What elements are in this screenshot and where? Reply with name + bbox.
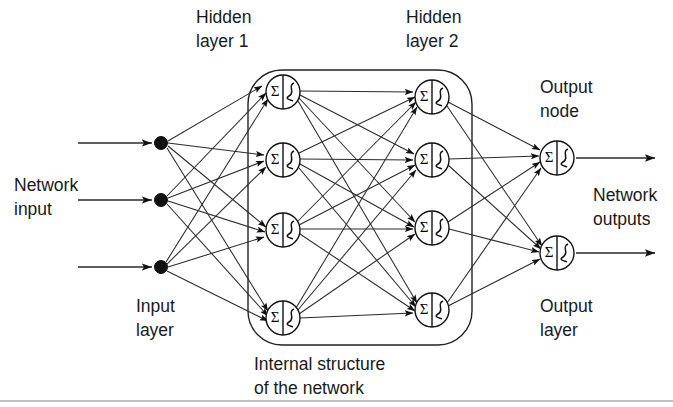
summation-symbol: Σ [420, 219, 429, 235]
edge-h2b-o1 [449, 156, 539, 159]
network-figure-canvas: Σ Σ Σ Σ Σ [0, 0, 673, 407]
label-output-layer: Output layer [540, 296, 593, 340]
edge-in2-h1d [167, 204, 268, 316]
edge-h1d-h2b [297, 170, 416, 311]
neuron-node-h1d: Σ [266, 301, 300, 335]
input-node-2 [155, 194, 168, 207]
network-outputs-line1: Network [593, 185, 657, 205]
summation-symbol: Σ [545, 244, 554, 260]
edge-h1a-h2a [300, 91, 413, 92]
input-node-3 [155, 261, 168, 274]
network-input-line1: Network [14, 175, 78, 195]
edge-in3-h1d [167, 271, 268, 321]
summation-symbol: Σ [545, 149, 554, 165]
network-output-lines [576, 158, 655, 253]
edge-h2b-o2 [448, 165, 541, 249]
network-input-lines [78, 143, 152, 267]
label-hidden-layer-2: Hidden layer 2 [406, 7, 461, 51]
neuron-node-o1: Σ [540, 141, 574, 175]
edge-in3-h1c [168, 237, 264, 267]
edge-h2c-o1 [448, 162, 540, 222]
edge-h2a-o1 [448, 102, 540, 150]
summation-symbol: Σ [420, 88, 429, 104]
edge-h1d-h2d [300, 313, 413, 318]
neuron-node-h1a: Σ [266, 75, 300, 109]
network-outputs-line2: outputs [593, 209, 651, 229]
neuron-node-h1c: Σ [266, 213, 300, 247]
summation-symbol: Σ [271, 83, 280, 99]
label-output-node: Output node [540, 77, 593, 121]
input-layer-line1: Input [136, 296, 175, 316]
summation-symbol: Σ [271, 309, 280, 325]
neuron-node-h2b: Σ [415, 143, 449, 177]
edge-h1b-h2a [299, 97, 415, 153]
edge-h1c-h2b [299, 165, 415, 225]
edge-h1b-h2d [299, 168, 416, 307]
input-layer-line2: layer [136, 320, 174, 340]
label-hidden-layer-1: Hidden layer 1 [196, 7, 251, 51]
hidden1-to-hidden2-edges [296, 91, 417, 318]
internal-structure-line2: of the network [254, 378, 364, 398]
output-node-line1: Output [540, 77, 593, 97]
edge-h2a-o2 [447, 106, 542, 246]
output-node-line2: node [540, 101, 579, 121]
neural-network-diagram: Σ Σ Σ Σ Σ [0, 0, 673, 407]
input-to-hidden1-edges [166, 86, 268, 321]
hidden-layer-1-line2: layer 1 [196, 31, 249, 51]
edge-h1b-h2b [300, 159, 413, 160]
label-network-input: Network input [14, 175, 78, 219]
output-layer-line1: Output [540, 296, 593, 316]
edge-h1c-h2a [298, 102, 416, 221]
label-network-outputs: Network outputs [593, 185, 657, 229]
hidden-layer-2-line1: Hidden [406, 7, 461, 27]
hidden2-to-output-edges [447, 102, 542, 306]
hidden-layer-2-line2: layer 2 [406, 31, 459, 51]
internal-structure-line1: Internal structure [254, 354, 385, 374]
label-input-layer: Input layer [136, 296, 175, 340]
neuron-node-h2d: Σ [415, 293, 449, 327]
edge-in1-h1d [167, 148, 268, 311]
output-layer-line2: layer [540, 320, 578, 340]
neuron-node-h1b: Σ [266, 143, 300, 177]
neuron-node-h2c: Σ [415, 211, 449, 245]
summation-symbol: Σ [420, 151, 429, 167]
input-layer-nodes [155, 137, 168, 274]
input-node-1 [155, 137, 168, 150]
neuron-node-h2a: Σ [415, 80, 449, 114]
edge-h2c-o2 [449, 229, 539, 252]
summation-symbol: Σ [271, 221, 280, 237]
label-internal-structure: Internal structure of the network [254, 354, 385, 398]
summation-symbol: Σ [420, 301, 429, 317]
summation-symbol: Σ [271, 151, 280, 167]
hidden-layer-1-line1: Hidden [196, 7, 251, 27]
edge-h1d-h2a [296, 107, 417, 308]
neuron-node-o2: Σ [540, 236, 574, 270]
network-input-line2: input [14, 199, 52, 219]
